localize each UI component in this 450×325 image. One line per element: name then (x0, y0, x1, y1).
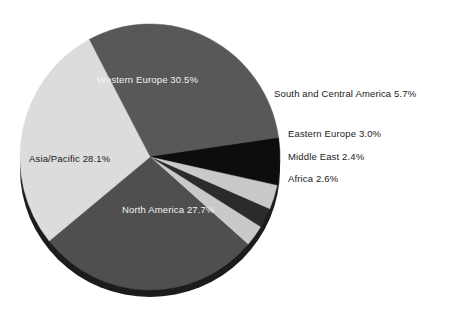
slice-label-middle-east: Middle East 2.4% (288, 151, 364, 162)
slice-label-western-europe: Western Europe 30.5% (97, 74, 198, 85)
pie-chart: Western Europe 30.5% Asia/Pacific 28.1% … (0, 0, 450, 325)
slice-label-south-and-central-america: South and Central America 5.7% (274, 88, 416, 99)
slice-label-north-america: North America 27.7% (122, 204, 215, 215)
slice-label-eastern-europe: Eastern Europe 3.0% (288, 128, 381, 139)
slice-label-africa: Africa 2.6% (288, 173, 338, 184)
slice-label-asia-pacific: Asia/Pacific 28.1% (29, 153, 110, 164)
